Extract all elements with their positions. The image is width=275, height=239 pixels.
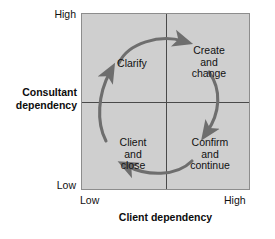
y-axis-tick-high: High xyxy=(48,8,76,20)
x-axis-tick-low: Low xyxy=(80,194,99,206)
quadrant-label-confirm-and-continue: Confirm and continue xyxy=(178,137,242,172)
quadrant-label-create-and-change: Create and change xyxy=(178,45,240,80)
consulting-cycle-diagram: Consultant dependency High Low Low High … xyxy=(0,0,275,239)
quadrant-label-clarify: Clarify xyxy=(102,58,162,70)
plot-area: Clarify Create and change Confirm and co… xyxy=(81,13,250,190)
y-axis-title: Consultant dependency xyxy=(3,86,77,111)
y-axis-tick-low: Low xyxy=(48,179,76,191)
x-axis-title: Client dependency xyxy=(81,211,250,224)
quadrant-label-client-and-close: Client and close xyxy=(104,137,162,172)
arrow-create-to-confirm xyxy=(207,72,218,132)
x-axis-tick-high: High xyxy=(224,194,246,206)
arrow-client-to-clarify xyxy=(100,72,110,141)
